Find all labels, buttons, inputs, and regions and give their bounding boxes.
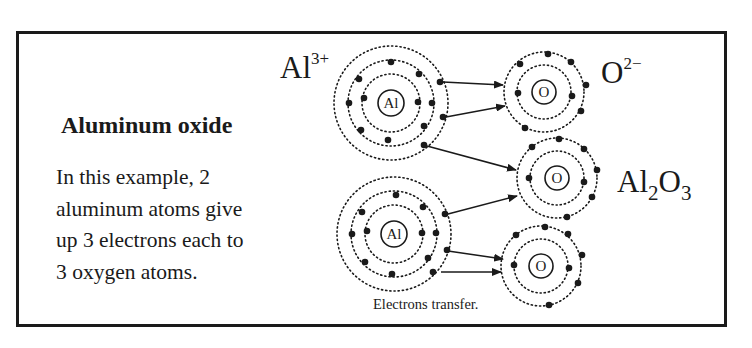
o-3-nucleus-label: O	[536, 258, 547, 274]
o-2-nucleus-label: O	[552, 170, 563, 186]
al-ion-charge: 3+	[311, 49, 329, 68]
al-1-nucleus-label: Al	[384, 95, 399, 111]
o-ion-charge: 2−	[623, 54, 641, 73]
o-1-nucleus-label: O	[539, 84, 550, 100]
al-2-nucleus-label: Al	[387, 226, 402, 242]
o-ion-label: O2−	[601, 57, 641, 88]
transfer-arrows	[427, 82, 517, 272]
al-ion-label: Al3+	[280, 52, 329, 83]
caption: Electrons transfer.	[373, 296, 479, 313]
compound-formula: Al2O3	[617, 166, 691, 197]
